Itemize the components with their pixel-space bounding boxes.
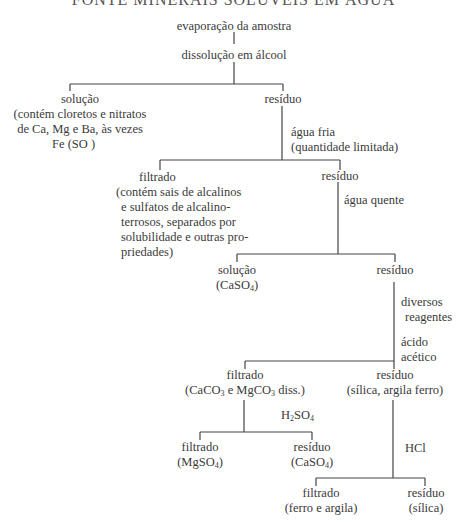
node-filtrado-6: filtrado (MgSO4) bbox=[170, 440, 230, 470]
node-evaporacao: evaporação da amostra bbox=[134, 19, 334, 34]
node-label: resíduo bbox=[282, 440, 342, 455]
step-dissolucao-alcool: dissolução em álcool bbox=[134, 48, 334, 63]
node-filtrado-5: filtrado (CaCO3 e MgCO3 diss.) bbox=[165, 368, 325, 398]
node-filtrado-2: filtrado (contém sais de alcalinos e sul… bbox=[116, 170, 248, 260]
formula-text: CaSO bbox=[220, 278, 250, 292]
node-residuo-1: resíduo bbox=[253, 92, 313, 107]
formula-subscript: 4 bbox=[250, 284, 254, 293]
node-desc-line: Fe (SO ) bbox=[0, 137, 160, 152]
step-line: ácido bbox=[401, 335, 436, 350]
node-label: resíduo bbox=[400, 486, 452, 501]
step-line: água fria bbox=[291, 125, 398, 140]
node-desc-line: de Ca, Mg e Ba, às vezes bbox=[0, 122, 160, 137]
formula-text: diss.) bbox=[275, 383, 305, 397]
step-line: (quantidade limitada) bbox=[291, 140, 398, 155]
node-residuo-2: resíduo bbox=[310, 169, 370, 184]
node-residuo-5: resíduo (sílica, argila ferro) bbox=[335, 368, 455, 398]
formula-text: CaSO bbox=[295, 455, 325, 469]
node-desc: (sílica, argila ferro) bbox=[335, 383, 455, 398]
node-desc-line: priedades) bbox=[116, 245, 248, 260]
node-solucao-1: solução (contém cloretos e nitratos de C… bbox=[0, 92, 160, 152]
node-label: filtrado bbox=[276, 486, 366, 501]
node-label: resíduo bbox=[335, 368, 455, 383]
formula-text: SO bbox=[294, 408, 310, 422]
node-formula: (CaCO3 e MgCO3 diss.) bbox=[165, 383, 325, 398]
node-desc: (ferro e argila) bbox=[276, 501, 366, 516]
formula-subscript: 4 bbox=[215, 461, 219, 470]
node-label: solução bbox=[207, 263, 267, 278]
node-desc: (sílica) bbox=[400, 501, 452, 516]
node-solucao-3: solução (CaSO4) bbox=[207, 263, 267, 293]
step-hcl: HCl bbox=[405, 441, 426, 456]
node-desc-line: solubilidade e outras pro- bbox=[116, 230, 248, 245]
node-residuo-7: resíduo (sílica) bbox=[400, 486, 452, 516]
formula-subscript: 4 bbox=[325, 461, 329, 470]
node-label: solução bbox=[0, 92, 160, 107]
formula-subscript: 4 bbox=[310, 414, 314, 423]
node-filtrado-7: filtrado (ferro e argila) bbox=[276, 486, 366, 516]
node-desc-line: (contém cloretos e nitratos bbox=[0, 107, 160, 122]
formula-text: H bbox=[281, 408, 290, 422]
node-desc-line: (contém sais de alcalinos bbox=[116, 185, 248, 200]
node-label: filtrado bbox=[165, 368, 325, 383]
formula-text: e MgCO bbox=[225, 383, 272, 397]
step-line: acético bbox=[401, 350, 436, 365]
node-desc-line: terrosos, separados por bbox=[116, 215, 248, 230]
node-formula: (CaSO4) bbox=[207, 278, 267, 293]
node-desc-line: e sulfatos de alcalino- bbox=[116, 200, 248, 215]
step-acido-acetico: ácido acético bbox=[401, 335, 436, 365]
step-h2so4: H2SO4 bbox=[281, 408, 314, 423]
step-diversos-reagentes: diversos reagentes bbox=[401, 295, 452, 325]
step-agua-fria: água fria (quantidade limitada) bbox=[291, 125, 398, 155]
node-residuo-3: resíduo bbox=[365, 263, 425, 278]
node-formula: (CaSO4) bbox=[282, 455, 342, 470]
formula-text: MgSO bbox=[181, 455, 214, 469]
step-line: reagentes bbox=[401, 310, 452, 325]
formula-text: (CaCO bbox=[185, 383, 220, 397]
node-formula: (MgSO4) bbox=[170, 455, 230, 470]
node-label: filtrado bbox=[170, 440, 230, 455]
step-agua-quente: água quente bbox=[344, 193, 404, 208]
step-line: diversos bbox=[401, 295, 452, 310]
node-residuo-6: resíduo (CaSO4) bbox=[282, 440, 342, 470]
node-label: filtrado bbox=[116, 170, 248, 185]
